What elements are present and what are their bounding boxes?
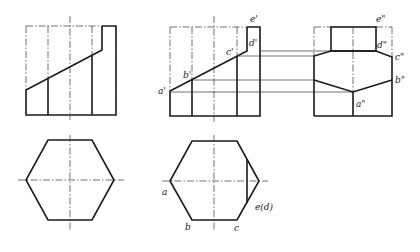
label-a: a [162, 187, 167, 197]
right-side-view: e" d" c" b" a" [314, 14, 405, 116]
top-block [331, 27, 376, 51]
label-a-dprime: a" [356, 99, 366, 109]
middle-front-view: e' d' c' b' a' [158, 14, 353, 122]
label-e-prime: e' [250, 14, 258, 24]
middle-top-view: a b c e(d) [162, 135, 274, 233]
label-c: c [234, 223, 239, 233]
label-c-prime: c' [226, 47, 234, 57]
hexagon [170, 141, 259, 220]
label-e-dprime: e" [376, 14, 385, 24]
left-front-view [26, 16, 116, 120]
prism-outline [26, 26, 116, 115]
label-b-dprime: b" [395, 75, 405, 85]
label-b-prime: b' [183, 70, 191, 80]
label-d-prime: d' [249, 38, 257, 48]
label-a-prime: a' [158, 86, 166, 96]
label-e-d: e(d) [255, 202, 274, 212]
label-b: b [185, 222, 191, 232]
label-c-dprime: c" [395, 52, 404, 62]
label-d-dprime: d" [377, 40, 387, 50]
left-top-view [18, 135, 124, 231]
projection-drawing: e' d' c' b' a' e" d" c" b" a" a b c e( [0, 0, 420, 252]
